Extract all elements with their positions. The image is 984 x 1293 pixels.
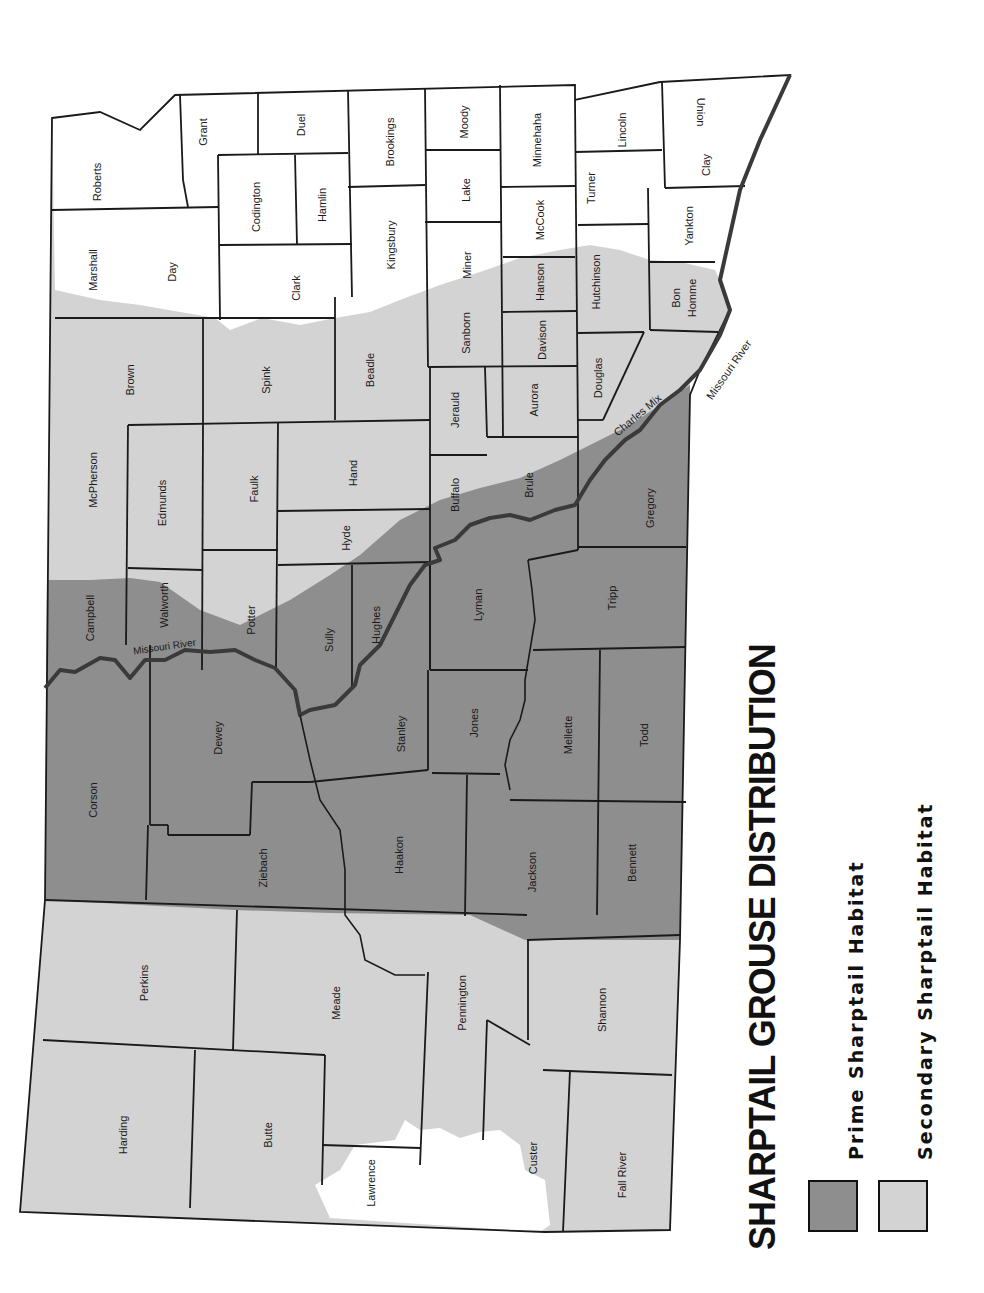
- label-fall-river: Fall River: [616, 1151, 628, 1198]
- label-beadle: Beadle: [364, 353, 376, 387]
- label-mcpherson: McPherson: [87, 452, 99, 508]
- label-mccook: McCook: [534, 199, 546, 240]
- label-meade: Meade: [330, 986, 342, 1020]
- label-homme: Homme: [686, 279, 698, 318]
- label-douglas: Douglas: [592, 357, 604, 398]
- south-dakota-county-map: Roberts Grant Duel Brookings Moody Minne…: [0, 0, 984, 1293]
- label-lyman: Lyman: [472, 589, 484, 622]
- label-butte: Butte: [262, 1122, 274, 1148]
- legend-label-prime: Prime Sharptail Habitat: [845, 861, 867, 1160]
- label-union: Union: [695, 98, 707, 127]
- label-jones: Jones: [468, 708, 480, 738]
- label-brule: Brule: [523, 472, 535, 498]
- label-lawrence: Lawrence: [365, 1159, 377, 1207]
- label-miner: Miner: [461, 251, 473, 279]
- label-sully: Sully: [323, 628, 335, 652]
- label-clay: Clay: [700, 154, 712, 177]
- label-pennington: Pennington: [456, 975, 468, 1031]
- label-perkins: Perkins: [138, 964, 150, 1001]
- label-faulk: Faulk: [248, 475, 260, 502]
- label-aurora: Aurora: [528, 383, 540, 417]
- legend-label-secondary: Secondary Sharptail Habitat: [914, 802, 936, 1160]
- label-lake: Lake: [460, 178, 472, 202]
- label-lincoln: Lincoln: [616, 113, 628, 148]
- label-marshall: Marshall: [87, 249, 99, 291]
- label-stanley: Stanley: [395, 715, 407, 752]
- label-jerauld: Jerauld: [449, 392, 461, 428]
- label-spink: Spink: [260, 366, 272, 394]
- label-hughes: Hughes: [370, 606, 382, 644]
- label-custer: Custer: [527, 1141, 539, 1174]
- label-kingsbury: Kingsbury: [385, 220, 397, 269]
- label-codington: Codington: [250, 182, 262, 232]
- legend-swatch-prime: [808, 1180, 858, 1232]
- label-moody: Moody: [458, 105, 470, 139]
- label-bennett: Bennett: [626, 844, 638, 882]
- label-buffalo: Buffalo: [449, 478, 461, 512]
- label-walworth: Walworth: [158, 582, 170, 627]
- label-campbell: Campbell: [84, 595, 96, 641]
- label-hamlin: Hamlin: [316, 188, 328, 222]
- label-grant: Grant: [197, 118, 209, 146]
- label-bon: Bon: [670, 288, 682, 308]
- label-gregory: Gregory: [644, 488, 656, 528]
- label-davison: Davison: [536, 320, 548, 360]
- label-tripp: Tripp: [606, 586, 618, 611]
- label-jackson: Jackson: [526, 852, 538, 892]
- label-harding: Harding: [117, 1116, 129, 1155]
- label-duel: Duel: [295, 114, 307, 137]
- label-haakon: Haakon: [393, 836, 405, 874]
- label-potter: Potter: [245, 605, 257, 635]
- label-todd: Todd: [638, 723, 650, 747]
- label-shannon: Shannon: [596, 988, 608, 1032]
- label-hanson: Hanson: [534, 263, 546, 301]
- label-yankton: Yankton: [683, 206, 695, 246]
- label-hand: Hand: [347, 460, 359, 486]
- label-mellette: Mellette: [562, 716, 574, 755]
- label-edmunds: Edmunds: [156, 479, 168, 526]
- label-hyde: Hyde: [340, 525, 352, 551]
- label-brookings: Brookings: [384, 117, 396, 166]
- label-sanborn: Sanborn: [460, 312, 472, 354]
- label-turner: Turner: [585, 172, 597, 204]
- map-title: SHARPTAIL GROUSE DISTRIBUTION: [742, 644, 784, 1250]
- label-minnehaha: Minnehaha: [531, 112, 543, 167]
- legend-swatch-secondary: [878, 1180, 928, 1232]
- label-day: Day: [166, 262, 178, 282]
- label-roberts: Roberts: [91, 162, 103, 201]
- label-hutchinson: Hutchinson: [590, 254, 602, 309]
- label-clark: Clark: [290, 275, 302, 301]
- label-brown: Brown: [124, 364, 136, 395]
- label-corson: Corson: [87, 782, 99, 817]
- label-ziebach: Ziebach: [257, 848, 269, 887]
- label-dewey: Dewey: [212, 721, 224, 755]
